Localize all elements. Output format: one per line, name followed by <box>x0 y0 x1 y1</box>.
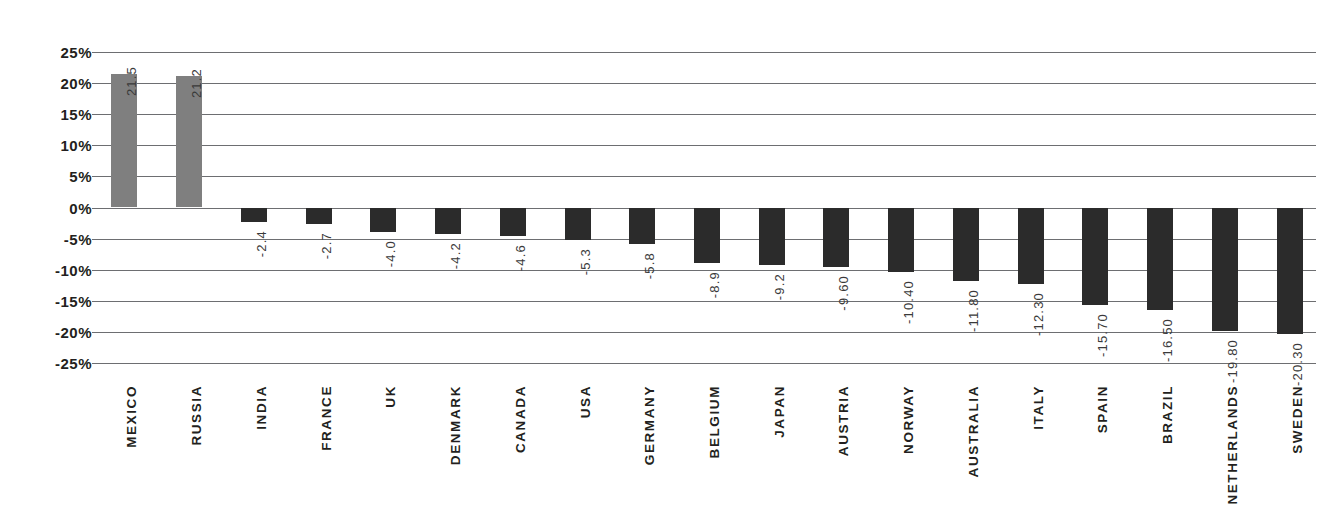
bar-value-label: -19.80 <box>1225 339 1240 383</box>
bar[interactable] <box>629 208 655 244</box>
x-axis-category-label: RUSSIA <box>189 385 204 446</box>
x-axis-category-label: FRANCE <box>319 385 334 451</box>
x-axis-category-label: BRAZIL <box>1160 385 1175 444</box>
bar[interactable] <box>953 208 979 281</box>
bar-value-label: -2.4 <box>254 230 269 257</box>
y-axis: 25%20%15%10%5%0%-5%-10%-15%-20%-25% <box>0 0 92 519</box>
bar-group[interactable]: -19.80NETHERLANDS <box>1193 0 1258 519</box>
x-axis-category-label: UK <box>383 385 398 408</box>
bar-value-label: -2.7 <box>319 232 334 259</box>
bar[interactable] <box>435 208 461 234</box>
bar[interactable] <box>694 208 720 263</box>
bar[interactable] <box>888 208 914 273</box>
x-axis-category-label: DENMARK <box>448 385 463 465</box>
x-axis-category-label: AUSTRALIA <box>966 385 981 477</box>
x-axis-category-label: INDIA <box>254 385 269 430</box>
bar-value-label: -15.70 <box>1095 313 1110 357</box>
bar-value-label: -11.80 <box>966 289 981 332</box>
x-axis-category-label: GERMANY <box>642 385 657 465</box>
bar-group[interactable]: -11.80AUSTRALIA <box>934 0 999 519</box>
x-axis-category-label: AUSTRIA <box>836 385 851 456</box>
bar-group[interactable]: -10.40NORWAY <box>869 0 934 519</box>
bar[interactable] <box>565 208 591 241</box>
y-axis-tick-label: 25% <box>0 44 92 61</box>
bar[interactable] <box>1277 208 1303 334</box>
bar[interactable] <box>1212 208 1238 331</box>
y-axis-tick-label: 20% <box>0 75 92 92</box>
y-axis-tick-label: -5% <box>0 230 92 247</box>
bar[interactable] <box>1082 208 1108 306</box>
bar-group[interactable]: 21.2RUSSIA <box>157 0 222 519</box>
bar-value-label: -4.2 <box>448 242 463 269</box>
bar[interactable] <box>500 208 526 237</box>
bar-group[interactable]: -4.2DENMARK <box>416 0 481 519</box>
bar-chart: 25%20%15%10%5%0%-5%-10%-15%-20%-25% 21.5… <box>0 0 1326 519</box>
bar-value-label: -20.30 <box>1290 342 1305 386</box>
x-axis-category-label: SPAIN <box>1095 385 1110 433</box>
x-axis-category-label: CANADA <box>513 385 528 453</box>
x-axis-category-label: USA <box>578 385 593 418</box>
x-axis-category-label: NETHERLANDS <box>1225 385 1240 505</box>
bar-group[interactable]: -8.9BELGIUM <box>675 0 740 519</box>
bar-value-label: -9.60 <box>836 275 851 311</box>
bar[interactable] <box>759 208 785 265</box>
y-axis-tick-label: -15% <box>0 292 92 309</box>
bar-series: 21.5MEXICO21.2RUSSIA-2.4INDIA-2.7FRANCE-… <box>92 0 1322 519</box>
bar-value-label: -12.30 <box>1031 292 1046 336</box>
bar-group[interactable]: -16.50BRAZIL <box>1128 0 1193 519</box>
bar-group[interactable]: 21.5MEXICO <box>92 0 157 519</box>
bar-value-label: -5.8 <box>642 252 657 279</box>
bar-value-label: -4.0 <box>383 240 398 267</box>
y-axis-tick-label: -25% <box>0 355 92 372</box>
bar-group[interactable]: -20.30SWEDEN <box>1257 0 1322 519</box>
bar-value-label: 21.5 <box>124 66 139 96</box>
bar-group[interactable]: -4.0UK <box>351 0 416 519</box>
bar-group[interactable]: -15.70SPAIN <box>1063 0 1128 519</box>
bar[interactable] <box>823 208 849 268</box>
y-axis-tick-label: 0% <box>0 199 92 216</box>
x-axis-category-label: NORWAY <box>901 385 916 454</box>
bar[interactable] <box>1018 208 1044 285</box>
bar-value-label: -5.3 <box>578 248 593 275</box>
y-axis-tick-label: -20% <box>0 323 92 340</box>
bar-group[interactable]: -5.3USA <box>545 0 610 519</box>
y-axis-tick-label: -10% <box>0 261 92 278</box>
bar-group[interactable]: -4.6CANADA <box>480 0 545 519</box>
bar[interactable] <box>241 208 267 223</box>
y-axis-tick-label: 15% <box>0 106 92 123</box>
x-axis-category-label: ITALY <box>1031 385 1046 430</box>
bar-group[interactable]: -9.60AUSTRIA <box>804 0 869 519</box>
bar-value-label: -16.50 <box>1160 318 1175 362</box>
bar-group[interactable]: -9.2JAPAN <box>739 0 804 519</box>
bar-group[interactable]: -12.30ITALY <box>998 0 1063 519</box>
x-axis-category-label: JAPAN <box>772 385 787 438</box>
y-axis-tick-label: 5% <box>0 168 92 185</box>
plot-area: 21.5MEXICO21.2RUSSIA-2.4INDIA-2.7FRANCE-… <box>92 0 1322 519</box>
bar-group[interactable]: -2.4INDIA <box>221 0 286 519</box>
bar-value-label: 21.2 <box>189 68 204 98</box>
y-axis-tick-label: 10% <box>0 137 92 154</box>
x-axis-category-label: BELGIUM <box>707 385 722 458</box>
bar-group[interactable]: -5.8GERMANY <box>610 0 675 519</box>
bar-group[interactable]: -2.7FRANCE <box>286 0 351 519</box>
bar[interactable] <box>370 208 396 233</box>
x-axis-category-label: SWEDEN <box>1290 385 1305 454</box>
bar-value-label: -9.2 <box>772 273 787 300</box>
bar-value-label: -4.6 <box>513 244 528 271</box>
x-axis-category-label: MEXICO <box>124 385 139 448</box>
bar[interactable] <box>306 208 332 225</box>
bar[interactable] <box>1147 208 1173 311</box>
bar-value-label: -8.9 <box>707 271 722 298</box>
bar-value-label: -10.40 <box>901 280 916 324</box>
